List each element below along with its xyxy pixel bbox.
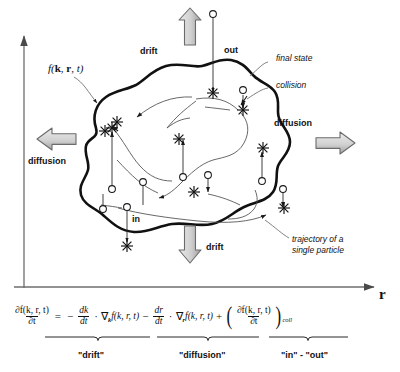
- state-circle: [280, 186, 287, 193]
- eq-minus-1: −: [64, 310, 76, 322]
- callout-leaders: [74, 62, 289, 238]
- label-trajectory: trajectory of a single particle: [292, 234, 344, 255]
- eq-dk: dk: [77, 306, 90, 316]
- eq-collision-subscript: coll: [282, 316, 292, 326]
- state-circle: [100, 206, 107, 213]
- collision-star: [207, 87, 219, 99]
- leader-collision: [247, 88, 268, 99]
- eq-collision-numerator: ∂f(k, r, t): [235, 306, 273, 316]
- leader-trajectory: [265, 220, 289, 238]
- eq-dk-dt: dk dt: [76, 306, 91, 327]
- eq-dt-1: dt: [78, 316, 89, 327]
- eq-plus: +: [213, 310, 225, 322]
- figure-canvas: drift out drift in diffusion diffusion f…: [0, 0, 400, 372]
- eq-dt-2: dt: [153, 316, 164, 327]
- eq-collision-denominator: ∂t: [248, 316, 259, 327]
- eq-paren-right: ): [275, 306, 281, 327]
- label-final-state: final state: [276, 53, 312, 64]
- state-circle: [205, 172, 212, 179]
- eq-minus-2: −: [139, 310, 151, 322]
- eq-lhs-denominator: ∂t: [26, 316, 37, 327]
- eq-lhs-fraction: ∂f(k, r, t) ∂t: [12, 306, 52, 327]
- label-drift-top: drift: [140, 46, 158, 56]
- state-circle: [210, 11, 217, 18]
- eq-dot-2: ·: [166, 310, 176, 322]
- collision-star: [173, 133, 185, 145]
- label-in: in: [132, 214, 140, 224]
- state-circle: [140, 179, 147, 186]
- collision-star: [237, 104, 249, 116]
- collision-star: [106, 122, 118, 134]
- eq-paren-left: (: [227, 306, 233, 327]
- eq-grad-k: ∇: [101, 310, 108, 323]
- collision-star: [121, 240, 133, 252]
- collision-star: [188, 186, 200, 198]
- label-out: out: [224, 45, 238, 55]
- label-diffusion-left: diffusion: [28, 156, 66, 166]
- collision-star: [257, 142, 269, 154]
- eq-term-drift: dk dt · ∇k f(k, r, t): [76, 306, 139, 327]
- eq-equals: =: [52, 310, 64, 322]
- collision-star: [278, 202, 290, 214]
- state-circle: [124, 204, 131, 211]
- state-circle: [180, 174, 187, 181]
- brace-label-diffusion: "diffusion": [179, 350, 226, 360]
- drift-arrow-down: [179, 226, 201, 263]
- state-circle: [240, 87, 247, 94]
- eq-collision-fraction: ∂f(k, r, t) ∂t: [234, 306, 274, 327]
- label-distribution-function: f(k, r, t): [48, 62, 83, 74]
- eq-f-2: f(k, r, t): [185, 311, 213, 321]
- leader-final-state: [250, 62, 268, 76]
- incoming-arrows: [112, 96, 247, 131]
- diffusion-arrow-left: [37, 128, 76, 150]
- label-trajectory-line1: trajectory of a: [292, 234, 344, 244]
- eq-dot-1: ·: [91, 310, 101, 322]
- state-circle: [259, 178, 266, 185]
- label-collision: collision: [276, 80, 306, 91]
- eq-dr: dr: [152, 306, 164, 316]
- label-trajectory-line2: single particle: [292, 245, 344, 255]
- brace-label-drift: "drift": [78, 350, 104, 360]
- brace-label-inout: "in" - "out": [281, 350, 328, 360]
- eq-dr-dt: dr dt: [151, 306, 165, 327]
- leader-distribution: [74, 77, 97, 103]
- drift-arrow-up: [179, 8, 201, 45]
- eq-f-1: f(k, r, t): [111, 311, 139, 321]
- eq-lhs-numerator: ∂f(k, r, t): [13, 306, 51, 316]
- eq-term-collision: ( ∂f(k, r, t) ∂t ) coll: [225, 306, 292, 327]
- label-diffusion-right: diffusion: [274, 118, 312, 128]
- state-circle: [109, 186, 116, 193]
- diffusion-arrow-right: [316, 132, 355, 154]
- eq-term-diffusion: dr dt · ∇r f(k, r, t): [151, 306, 213, 327]
- eq-grad-r: ∇: [176, 310, 183, 323]
- label-drift-bottom: drift: [206, 242, 224, 252]
